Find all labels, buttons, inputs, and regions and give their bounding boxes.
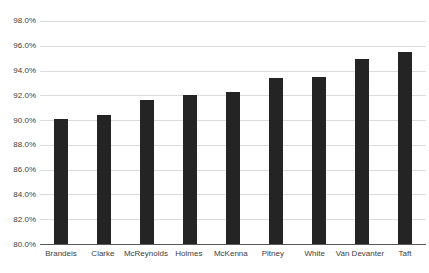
bar (97, 115, 111, 244)
bar-slot (297, 21, 340, 244)
x-tick-label: McReynolds (124, 250, 168, 258)
bar-slot (83, 21, 126, 244)
bars (40, 21, 426, 244)
x-tick-label: White (294, 250, 336, 258)
bar-slot (254, 21, 297, 244)
x-tick-label: Clarke (82, 250, 124, 258)
y-tick-label: 98.0% (0, 17, 36, 25)
y-axis: 80.0%82.0%84.0%86.0%88.0%90.0%92.0%94.0%… (0, 21, 36, 245)
bar (312, 77, 326, 244)
y-tick-label: 90.0% (0, 117, 36, 125)
plot-area (40, 21, 426, 245)
y-tick-label: 88.0% (0, 141, 36, 149)
x-axis: BrandeisClarkeMcReynoldsHolmesMcKennaPit… (40, 250, 426, 258)
x-tick-label: Holmes (168, 250, 210, 258)
x-tick-label: Taft (384, 250, 426, 258)
y-tick-label: 96.0% (0, 42, 36, 50)
bar-slot (212, 21, 255, 244)
bar (226, 92, 240, 244)
bar-slot (126, 21, 169, 244)
bar (269, 78, 283, 244)
bar (355, 59, 369, 244)
bar (140, 100, 154, 244)
x-tick-label: Brandeis (40, 250, 82, 258)
y-tick-label: 80.0% (0, 241, 36, 249)
bar-chart: 80.0%82.0%84.0%86.0%88.0%90.0%92.0%94.0%… (0, 0, 429, 273)
y-tick-label: 94.0% (0, 67, 36, 75)
bar-slot (169, 21, 212, 244)
bar (183, 95, 197, 244)
bar-slot (340, 21, 383, 244)
bar (54, 119, 68, 244)
y-tick-label: 86.0% (0, 166, 36, 174)
x-tick-label: Pitney (252, 250, 294, 258)
bar-slot (40, 21, 83, 244)
bar-slot (383, 21, 426, 244)
x-tick-label: McKenna (210, 250, 252, 258)
y-tick-label: 92.0% (0, 92, 36, 100)
y-tick-label: 82.0% (0, 216, 36, 224)
x-tick-label: Van Devanter (336, 250, 384, 258)
y-tick-label: 84.0% (0, 191, 36, 199)
bar (398, 52, 412, 244)
